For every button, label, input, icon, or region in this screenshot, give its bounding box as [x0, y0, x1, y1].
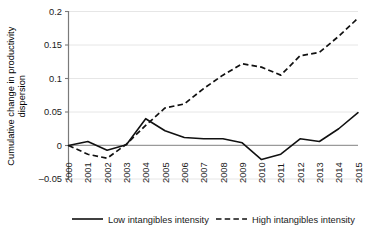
x-tick-label: 2010: [257, 162, 267, 183]
x-tick-label: 2004: [141, 162, 151, 183]
x-tick-label: 2000: [64, 162, 74, 183]
x-tick-label: 2001: [83, 162, 93, 183]
x-tick-label: 2012: [296, 162, 306, 183]
y-tick-label: 0.05: [44, 107, 62, 117]
chart-plot-area: –0.0500.050.10.150.2 2000200120022003200…: [0, 0, 368, 237]
y-tick-label: 0.2: [49, 7, 62, 17]
x-tick-label: 2011: [276, 163, 286, 183]
series-high-intangibles-intensity: [69, 18, 359, 158]
legend-label-low-intangibles-intensity: Low intangibles intensity: [108, 215, 209, 225]
x-tick-label: 2008: [219, 162, 229, 183]
y-axis-tick-labels: –0.0500.050.10.150.2: [39, 7, 62, 185]
x-tick-label: 2014: [334, 162, 344, 183]
x-tick-label: 2003: [122, 162, 132, 183]
series-low-intangibles-intensity: [69, 113, 359, 160]
x-axis-tick-labels: 2000200120022003200420052006200720082009…: [64, 162, 364, 183]
x-tick-label: 2005: [161, 162, 171, 183]
y-tick-label: 0.1: [49, 74, 62, 84]
y-tick-label: 0.15: [44, 40, 62, 50]
productivity-dispersion-chart: Cumulative change in productivity disper…: [0, 0, 368, 237]
x-tick-label: 2002: [103, 162, 113, 183]
legend: Low intangibles intensity High intangibl…: [72, 215, 355, 225]
legend-label-high-intangibles-intensity: High intangibles intensity: [252, 215, 355, 225]
y-tick-label: 0: [57, 141, 62, 151]
x-tick-label: 2009: [238, 162, 248, 183]
y-tick-label: –0.05: [39, 174, 62, 184]
x-tick-label: 2007: [199, 162, 209, 183]
x-tick-label: 2013: [315, 162, 325, 183]
x-tick-label: 2006: [180, 162, 190, 183]
x-tick-label: 2015: [354, 162, 364, 183]
